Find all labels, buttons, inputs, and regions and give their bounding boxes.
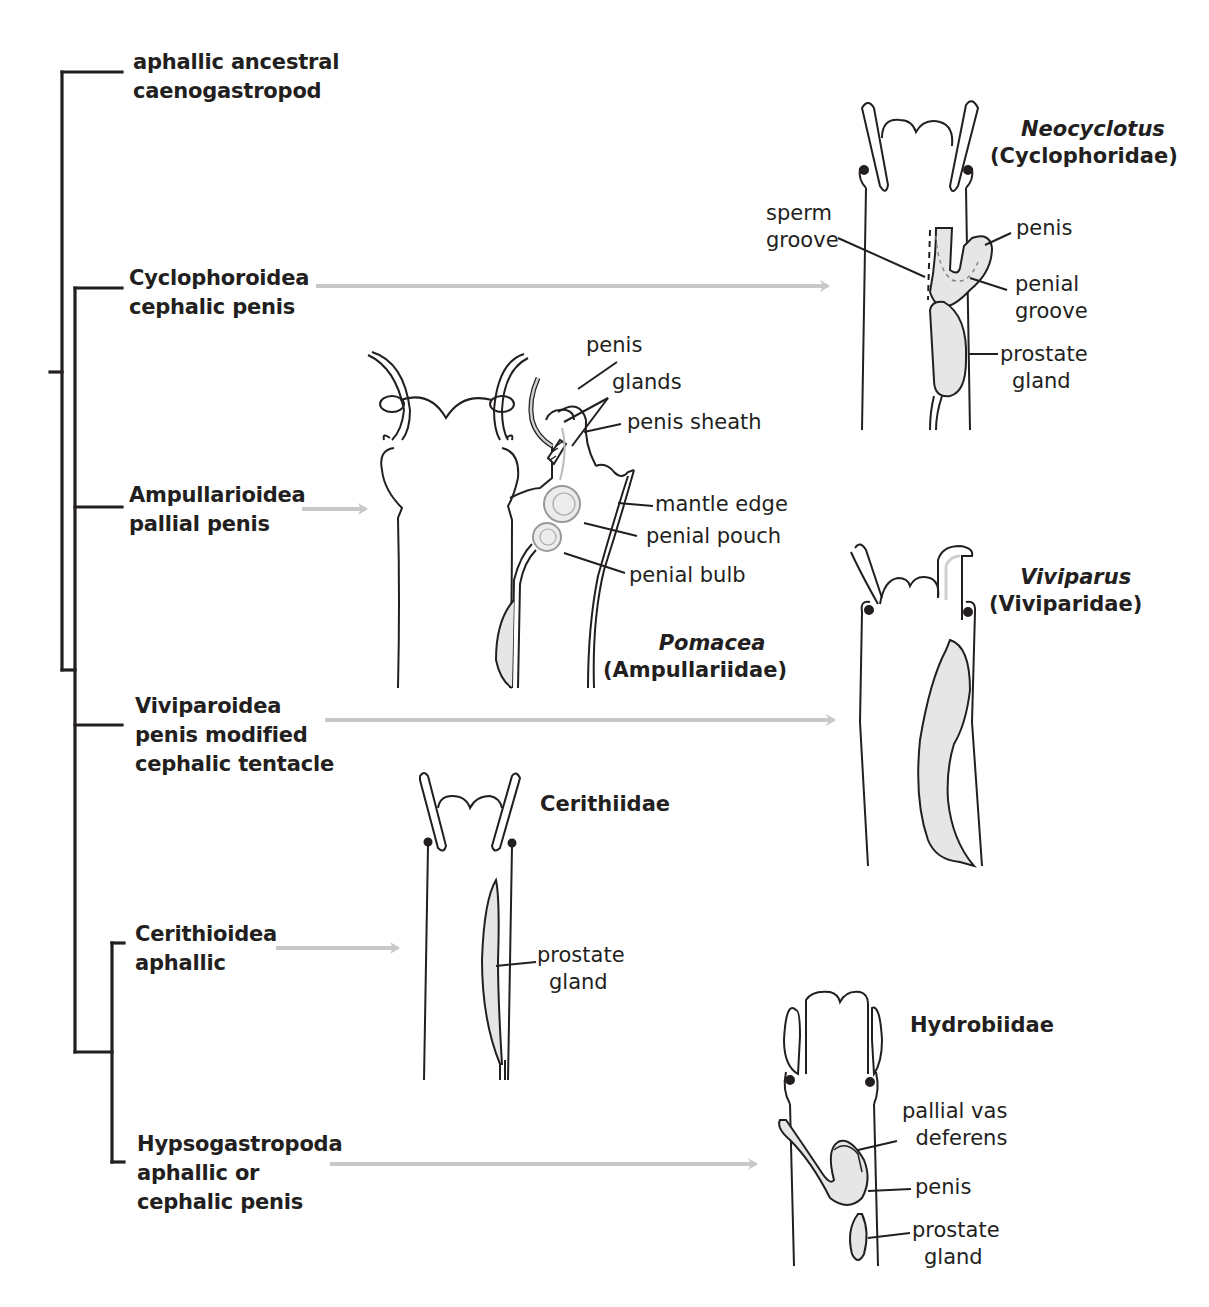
viviparus-drawing [851,544,982,866]
clade-line: Ampullarioidea [129,481,306,510]
label-line: sperm [766,200,839,227]
family-name: (Ampullariidae) [603,657,787,684]
label-line: penis [1016,216,1072,240]
label-penial-pouch: penial pouch [646,523,781,550]
label-prostate-gland: prostate gland [1000,341,1088,395]
neocyclotus-drawing [838,101,1011,430]
label-penial-bulb: penial bulb [629,562,746,589]
cerithiidae-drawing [420,773,536,1080]
genus-name: Neocyclotus [990,116,1178,143]
label-pomacea-penis: penis [586,332,642,359]
clade-label-cyclophoroidea: Cyclophoroidea cephalic penis [129,264,309,322]
clade-line: aphallic ancestral [133,48,339,77]
label-line: pallial vas [902,1098,1007,1125]
label-line: penis [915,1175,971,1199]
clade-line: Cyclophoroidea [129,264,309,293]
clade-line: cephalic penis [129,293,309,322]
label-mantle-edge: mantle edge [655,491,788,518]
label-line: prostate [912,1217,1000,1244]
clade-label-ampullarioidea: Ampullarioidea pallial penis [129,481,306,539]
clade-line: caenogastropod [133,77,339,106]
clade-label-viviparoidea: Viviparoidea penis modified cephalic ten… [135,692,334,779]
clade-line: aphallic or [137,1159,342,1188]
label-line: penial bulb [629,563,746,587]
label-line: penial [1015,271,1088,298]
label-line: mantle edge [655,492,788,516]
label-line: glands [612,370,682,394]
label-line: prostate [1000,341,1088,368]
hydrobiidae-title: Hydrobiidae [910,1012,1054,1039]
label-line: gland [1000,368,1088,395]
clade-label-hypsogastropoda: Hypsogastropoda aphallic or cephalic pen… [137,1130,342,1217]
label-glands: glands [612,369,682,396]
label-penis-sheath: penis sheath [627,409,762,436]
label-line: groove [1015,298,1088,325]
label-hydrobiidae-prostate-gland: prostate gland [912,1217,1000,1271]
viviparus-title: Viviparus (Viviparidae) [989,564,1142,618]
label-pallial-vas-deferens: pallial vas deferens [902,1098,1007,1152]
clade-line: Hypsogastropoda [137,1130,342,1159]
neocyclotus-title: Neocyclotus (Cyclophoridae) [990,116,1178,170]
cerithiidae-title: Cerithiidae [540,791,670,818]
genus-name: Viviparus [989,564,1142,591]
family-name: (Cyclophoridae) [990,143,1178,170]
genus-name: Pomacea [603,630,787,657]
family-name: Cerithiidae [540,792,670,816]
clade-line: aphallic [135,949,277,978]
label-line: groove [766,227,839,254]
label-line: penis sheath [627,410,762,434]
label-penis: penis [1016,215,1072,242]
clade-label-cerithioidea: Cerithioidea aphallic [135,920,277,978]
label-cerithiidae-prostate-gland: prostate gland [537,942,625,996]
clade-line: Cerithioidea [135,920,277,949]
label-line: penis [586,333,642,357]
label-line: gland [537,969,625,996]
label-hydrobiidae-penis: penis [915,1174,971,1201]
label-line: penial pouch [646,524,781,548]
label-line: gland [912,1244,1000,1271]
clade-line: pallial penis [129,510,306,539]
hydrobiidae-drawing [779,992,911,1266]
clade-label-ancestral: aphallic ancestral caenogastropod [133,48,339,106]
family-name: Hydrobiidae [910,1013,1054,1037]
label-penial-groove: penial groove [1015,271,1088,325]
clade-line: cephalic penis [137,1188,342,1217]
clade-line: Viviparoidea [135,692,334,721]
family-name: (Viviparidae) [989,591,1142,618]
clade-line: cephalic tentacle [135,750,334,779]
label-line: deferens [902,1125,1007,1152]
label-sperm-groove: sperm groove [766,200,839,254]
pomacea-title: Pomacea (Ampullariidae) [603,630,787,684]
phylogeny-tree [50,72,124,1162]
clade-line: penis modified [135,721,334,750]
label-line: prostate [537,942,625,969]
